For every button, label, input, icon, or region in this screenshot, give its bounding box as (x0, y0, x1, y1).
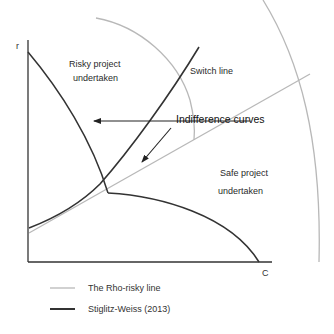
arrow-to-safe-curve (142, 128, 171, 162)
rho-risky-line (29, 74, 310, 233)
safe-region-label-1: Safe project (220, 168, 268, 179)
indifference-curves-label: Indifference curves (176, 114, 265, 125)
rho-arc-outer (263, 0, 319, 262)
y-axis-label: r (16, 41, 19, 51)
safe-region-label-2: undertaken (218, 186, 263, 197)
risky-region-label-1: Risky project (69, 59, 121, 70)
switch-line-label: Switch line (190, 66, 233, 77)
risky-region-label-2: undertaken (73, 73, 118, 84)
diagram-canvas (0, 0, 334, 334)
x-axis-label: C (262, 268, 269, 278)
legend-item-stiglitz-weiss: Stiglitz-Weiss (2013) (88, 304, 170, 314)
safe-indifference-curve (108, 193, 259, 262)
legend-item-rho: The Rho-risky line (88, 283, 161, 293)
